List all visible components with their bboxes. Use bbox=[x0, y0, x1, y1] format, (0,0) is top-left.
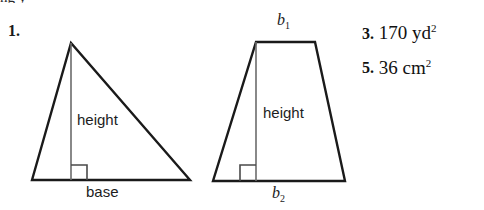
triangle-figure bbox=[0, 0, 210, 210]
b1-subscript: 1 bbox=[285, 20, 290, 31]
answer-number: 3. bbox=[362, 25, 374, 42]
answer-row: 5. 36 cm2 bbox=[362, 48, 437, 82]
answer-value-text: 36 cm bbox=[379, 57, 426, 78]
trapezoid-bottom-base-label: b2 bbox=[272, 184, 285, 204]
triangle-right-angle-icon bbox=[71, 165, 87, 180]
answer-number: 5. bbox=[362, 60, 374, 77]
triangle-height-label: height bbox=[77, 111, 118, 128]
answer-value: 36 cm2 bbox=[379, 57, 431, 78]
b2-letter: b bbox=[272, 184, 280, 201]
answer-key-column: 3. 170 yd2 5. 36 cm2 bbox=[362, 14, 437, 83]
answer-exponent: 2 bbox=[431, 22, 437, 34]
answer-value: 170 yd2 bbox=[379, 22, 437, 43]
answer-exponent: 2 bbox=[426, 56, 432, 68]
trapezoid-height-label: height bbox=[263, 104, 304, 121]
worksheet-page: ng y 1. height base b1 height b2 3. 170 … bbox=[0, 0, 484, 210]
triangle-base-label: base bbox=[86, 183, 119, 200]
b2-subscript: 2 bbox=[280, 193, 285, 204]
trapezoid-right-angle-icon bbox=[240, 165, 256, 181]
answer-value-text: 170 yd bbox=[379, 22, 431, 43]
b1-letter: b bbox=[277, 11, 285, 28]
answer-row: 3. 170 yd2 bbox=[362, 14, 437, 48]
trapezoid-top-base-label: b1 bbox=[277, 11, 290, 31]
